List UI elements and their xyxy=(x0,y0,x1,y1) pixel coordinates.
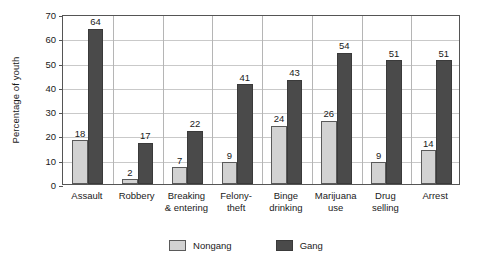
bar-nongang-3 xyxy=(222,162,238,184)
gridline xyxy=(63,40,459,41)
y-axis-tick-label: 70 xyxy=(26,11,63,21)
y-axis-tick-label: 10 xyxy=(26,157,63,167)
legend-label: Gang xyxy=(300,241,323,251)
x-axis-tick-label-line: selling xyxy=(351,202,421,214)
bar-gang-7 xyxy=(436,60,452,184)
bar-nongang-1 xyxy=(122,179,138,184)
nongang-swatch xyxy=(169,240,186,251)
plot-area: 0102030405060701864217722941244326549511… xyxy=(62,15,460,185)
bar-value-label: 54 xyxy=(331,41,359,51)
bar-gang-6 xyxy=(386,60,402,184)
y-axis-tick-mark xyxy=(59,40,63,41)
bar-chart-figure: Percentage of youth 01020304050607018642… xyxy=(0,0,492,269)
bar-gang-5 xyxy=(337,53,353,184)
y-axis-tick-mark xyxy=(59,65,63,66)
bar-value-label: 43 xyxy=(281,68,309,78)
bar-value-label: 22 xyxy=(181,119,209,129)
group-separator xyxy=(262,16,263,184)
y-axis-tick-mark xyxy=(59,113,63,114)
y-axis-tick-mark xyxy=(59,137,63,138)
bar-gang-0 xyxy=(88,29,104,184)
legend-item-gang[interactable]: Gang xyxy=(276,240,323,251)
bar-value-label: 64 xyxy=(82,17,110,27)
y-axis-tick-label: 40 xyxy=(26,84,63,94)
y-axis-tick-label: 20 xyxy=(26,133,63,143)
bar-value-label: 17 xyxy=(132,131,160,141)
bar-value-label: 41 xyxy=(231,73,259,83)
bar-nongang-0 xyxy=(72,140,88,184)
y-axis-tick-mark xyxy=(59,89,63,90)
bar-nongang-4 xyxy=(271,126,287,184)
chart-legend: NongangGang xyxy=(0,240,492,251)
bar-gang-3 xyxy=(237,84,253,184)
group-separator xyxy=(411,16,412,184)
bar-nongang-7 xyxy=(421,150,437,184)
y-axis-tick-label: 60 xyxy=(26,36,63,46)
bar-gang-2 xyxy=(187,131,203,184)
group-separator xyxy=(113,16,114,184)
bar-nongang-5 xyxy=(321,121,337,184)
bar-nongang-2 xyxy=(172,167,188,184)
gang-swatch xyxy=(276,240,293,251)
bar-nongang-6 xyxy=(371,162,387,184)
bar-gang-1 xyxy=(138,143,154,184)
bar-gang-4 xyxy=(287,80,303,184)
y-axis-tick-label: 30 xyxy=(26,108,63,118)
bar-value-label: 51 xyxy=(430,49,458,59)
y-axis-tick-label: 50 xyxy=(26,60,63,70)
group-separator xyxy=(312,16,313,184)
group-separator xyxy=(163,16,164,184)
group-separator xyxy=(212,16,213,184)
y-axis-tick-mark xyxy=(59,186,63,187)
y-axis-tick-mark xyxy=(59,16,63,17)
bar-value-label: 51 xyxy=(380,49,408,59)
legend-item-nongang[interactable]: Nongang xyxy=(169,240,232,251)
legend-label: Nongang xyxy=(193,241,232,251)
x-axis-tick-label-line: Arrest xyxy=(400,190,470,202)
x-axis-tick-label: Arrest xyxy=(400,190,470,202)
y-axis-tick-mark xyxy=(59,162,63,163)
group-separator xyxy=(362,16,363,184)
